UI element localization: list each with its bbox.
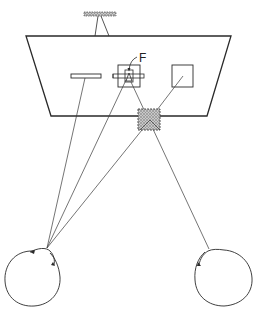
sight-line-hatched-to-right-square: [157, 76, 183, 110]
trapezoid-frame: [26, 36, 231, 116]
sight-line-center-to-right-eye: [131, 82, 209, 249]
sight-line-left-eye-to-left-bar: [47, 78, 85, 248]
right-eye: [195, 249, 252, 306]
light-bar-support-left: [95, 16, 98, 36]
left-eye: [5, 248, 60, 306]
right-eye-globe: [195, 249, 252, 306]
diagram-canvas: F: [0, 0, 262, 317]
sight-lines: [47, 76, 209, 249]
left-bar: [71, 74, 101, 78]
light-bar: [84, 12, 116, 16]
left-eye-globe: [5, 251, 60, 306]
focus-label: F: [139, 51, 146, 65]
light-bar-support-right: [101, 16, 109, 36]
right-square: [172, 65, 193, 87]
